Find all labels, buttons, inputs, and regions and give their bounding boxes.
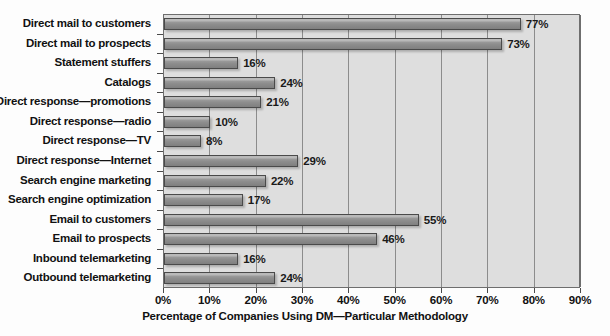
category-label: Outbound telemarketing — [24, 268, 151, 288]
y-axis-tick — [157, 34, 163, 35]
y-axis-tick — [157, 112, 163, 113]
y-axis-tick — [157, 53, 163, 54]
bar — [164, 155, 298, 167]
y-axis-tick — [157, 190, 163, 191]
bar-value-label: 16% — [243, 250, 265, 270]
category-label: Direct response—Internet — [16, 151, 151, 171]
y-axis-tick — [157, 131, 163, 132]
x-axis-tick-label: 30% — [291, 294, 313, 306]
bar — [164, 18, 521, 30]
bar — [164, 116, 210, 128]
bar-value-label: 24% — [280, 74, 302, 94]
x-axis-tick-label: 50% — [383, 294, 405, 306]
bar — [164, 233, 377, 245]
bar-value-label: 29% — [303, 152, 325, 172]
bar-value-label: 10% — [215, 113, 237, 133]
x-axis-tick-label: 10% — [198, 294, 220, 306]
bar-value-label: 17% — [248, 191, 270, 211]
bar-row: 29% — [164, 152, 579, 172]
bar-row: 22% — [164, 172, 579, 192]
plot-area: 77%73%16%24%21%10%8%29%22%17%55%46%16%24… — [163, 14, 580, 288]
bar — [164, 175, 266, 187]
bar-row: 73% — [164, 35, 579, 55]
y-axis-tick — [157, 151, 163, 152]
x-axis-tick — [256, 288, 257, 293]
category-label: Direct response—TV — [42, 131, 151, 151]
x-axis-tick — [441, 288, 442, 293]
category-label: Catalogs — [104, 73, 151, 93]
x-axis-tick-label: 70% — [476, 294, 498, 306]
x-axis-tick — [209, 288, 210, 293]
x-axis-tick-label: 90% — [569, 294, 591, 306]
x-axis-tick — [487, 288, 488, 293]
bar-row: 16% — [164, 54, 579, 74]
y-axis-tick — [157, 73, 163, 74]
y-axis-tick — [157, 92, 163, 93]
category-label: Direct response—radio — [30, 112, 151, 132]
x-axis-tick-label: 20% — [244, 294, 266, 306]
category-label: Direct mail to customers — [23, 14, 151, 34]
bar-row: 16% — [164, 250, 579, 270]
y-axis-category-labels: Direct mail to customersDirect mail to p… — [0, 14, 157, 288]
bar-value-label: 77% — [526, 15, 548, 35]
category-label: Search engine optimization — [8, 190, 151, 210]
bar-row: 21% — [164, 93, 579, 113]
category-label: Search engine marketing — [20, 171, 151, 191]
bar-row: 24% — [164, 74, 579, 94]
bar — [164, 57, 238, 69]
bar-value-label: 24% — [280, 269, 302, 289]
bar — [164, 253, 238, 265]
y-axis-tick — [157, 210, 163, 211]
category-label: Email to customers — [49, 210, 151, 230]
y-axis-tick — [157, 268, 163, 269]
x-axis-tick — [302, 288, 303, 293]
bar-row: 55% — [164, 211, 579, 231]
bar — [164, 77, 275, 89]
bar-value-label: 21% — [266, 93, 288, 113]
bar-row: 77% — [164, 15, 579, 35]
category-label: Inbound telemarketing — [33, 249, 151, 269]
x-axis-tick — [348, 288, 349, 293]
bar-value-label: 55% — [424, 211, 446, 231]
x-axis-tick — [395, 288, 396, 293]
bar — [164, 214, 419, 226]
bar-row: 24% — [164, 269, 579, 289]
bar-value-label: 22% — [271, 172, 293, 192]
x-axis-tick — [534, 288, 535, 293]
bar — [164, 135, 201, 147]
category-label: Statement stuffers — [55, 53, 151, 73]
gridline — [580, 15, 581, 287]
bar-value-label: 73% — [507, 35, 529, 55]
x-axis-title: Percentage of Companies Using DM—Particu… — [0, 310, 610, 322]
x-axis-tick — [580, 288, 581, 293]
y-axis-tick — [157, 171, 163, 172]
bar — [164, 38, 502, 50]
bar — [164, 194, 243, 206]
bar-value-label: 16% — [243, 54, 265, 74]
y-axis-tick — [157, 229, 163, 230]
x-axis-tick-label: 0% — [155, 294, 171, 306]
bar-row: 8% — [164, 132, 579, 152]
bar-value-label: 8% — [206, 132, 222, 152]
x-axis-tick-label: 60% — [430, 294, 452, 306]
x-axis-tick-label: 40% — [337, 294, 359, 306]
bar — [164, 272, 275, 284]
category-label: Direct response—promotions — [0, 92, 151, 112]
x-axis-tick-label: 80% — [522, 294, 544, 306]
x-axis-tick — [163, 288, 164, 293]
bar-row: 10% — [164, 113, 579, 133]
bar-row: 17% — [164, 191, 579, 211]
bar-chart: Direct mail to customersDirect mail to p… — [0, 0, 610, 336]
category-label: Direct mail to prospects — [26, 34, 151, 54]
category-label: Email to prospects — [53, 229, 151, 249]
bar — [164, 96, 261, 108]
bar-row: 46% — [164, 230, 579, 250]
y-axis-tick — [157, 249, 163, 250]
bar-value-label: 46% — [382, 230, 404, 250]
